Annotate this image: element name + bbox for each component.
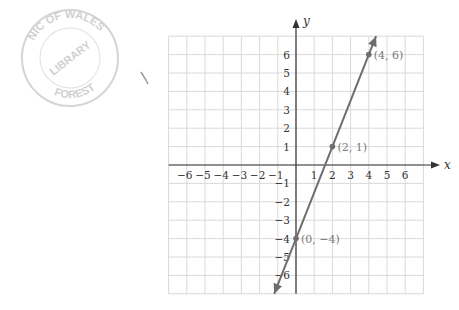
svg-text:FOREST: FOREST (52, 80, 99, 103)
x-tick-label: −6 (177, 169, 193, 181)
svg-text:NIC OF WALES: NIC OF WALES (22, 3, 108, 44)
coordinate-plane: NIC OF WALES LIBRARY FOREST xy −6−5−4−3−… (0, 0, 459, 310)
y-tick-label: 3 (283, 104, 290, 116)
pencil-mark (141, 72, 148, 84)
stamp-top-text: NIC OF WALES (22, 3, 108, 44)
y-tick-label: 2 (283, 122, 290, 134)
y-tick-label: 6 (283, 49, 290, 61)
y-tick-label: 1 (283, 141, 290, 153)
y-tick-label: −1 (275, 177, 290, 189)
point-label: (4, 6) (374, 49, 404, 62)
x-tick-label: 3 (347, 169, 354, 181)
y-axis-label: y (302, 14, 310, 28)
y-tick-label: 5 (283, 67, 290, 79)
point-label: (0, −4) (301, 233, 340, 246)
x-tick-label: 6 (402, 169, 409, 181)
x-tick-label: 2 (329, 169, 336, 181)
y-tick-label: −2 (275, 196, 290, 208)
x-axis-label: x (444, 158, 451, 172)
x-tick-label: 4 (365, 169, 372, 181)
x-axis-arrow-icon (431, 162, 440, 169)
x-tick-label: −2 (250, 169, 265, 181)
library-stamp: NIC OF WALES LIBRARY FOREST (15, 2, 124, 113)
data-point (330, 144, 336, 150)
stamp-middle-text: LIBRARY (47, 38, 93, 78)
y-tick-label: −3 (275, 214, 290, 226)
x-tick-label: 5 (384, 169, 391, 181)
y-axis-arrow-icon (293, 19, 300, 28)
x-tick-label: −5 (195, 169, 210, 181)
stamp-bottom-text: FOREST (52, 80, 99, 103)
data-point (293, 236, 299, 242)
data-point (366, 52, 372, 58)
axes: xy (169, 14, 451, 294)
point-label: (2, 1) (337, 141, 367, 154)
x-tick-label: 1 (311, 169, 318, 181)
x-tick-label: −3 (232, 169, 247, 181)
x-tick-label: −4 (213, 169, 229, 181)
y-tick-label: −4 (275, 233, 291, 245)
y-tick-label: 4 (283, 85, 290, 97)
